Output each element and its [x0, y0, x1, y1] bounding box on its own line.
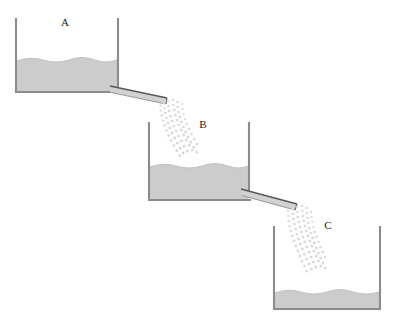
container-b: B [148, 118, 251, 201]
container-label-b: B [199, 118, 206, 130]
stream-b-to-c [287, 205, 327, 273]
container-label-a: A [61, 16, 69, 28]
container-a: A [15, 16, 120, 93]
stream-a-to-b [159, 99, 198, 157]
cascade-diagram: A [0, 0, 396, 320]
water-fill-b [150, 164, 248, 201]
container-label-c: C [324, 219, 331, 231]
container-c: C [273, 219, 381, 310]
water-fill-a [17, 58, 117, 93]
diagram-canvas: A [0, 0, 396, 320]
spout-a-body [110, 86, 167, 104]
spout-a-to-b [110, 86, 167, 104]
